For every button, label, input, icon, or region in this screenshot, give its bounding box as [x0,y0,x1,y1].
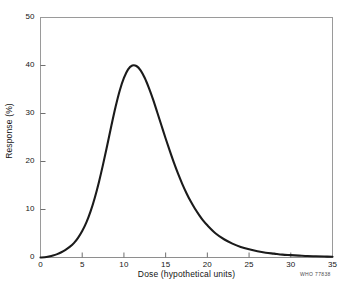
x-tick-label-15: 15 [155,260,177,269]
x-tick-label-20: 20 [196,260,218,269]
plot-area-frame [40,17,333,258]
x-tick-label-0: 0 [30,260,52,269]
y-tick-label-20: 20 [13,156,35,165]
x-tick-label-10: 10 [113,260,135,269]
x-tick-label-35: 35 [322,260,344,269]
x-tick-label-5: 5 [71,260,93,269]
publication-credit: WHO 77838 [300,271,331,277]
figure-canvas: 01020304050 05101520253035 Dose (hypothe… [0,0,347,291]
x-tick-label-25: 25 [238,260,260,269]
y-axis-title: Response (%) [4,91,14,171]
y-tick-label-10: 10 [13,204,35,213]
x-tick-label-30: 30 [280,260,302,269]
y-tick-label-40: 40 [13,60,35,69]
y-tick-label-30: 30 [13,108,35,117]
x-axis-title: Dose (hypothetical units) [40,269,333,279]
y-tick-label-50: 50 [13,12,35,21]
